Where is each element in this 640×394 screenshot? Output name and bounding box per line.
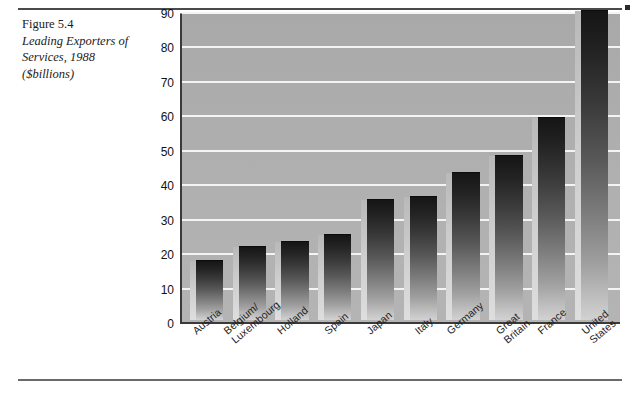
bar-italy[interactable]	[410, 196, 437, 320]
bar-slot	[316, 14, 359, 320]
y-axis-tick-0: 0	[148, 318, 174, 330]
bar-germany[interactable]	[452, 172, 479, 320]
bar-japan[interactable]	[367, 199, 394, 320]
y-axis: 9080706050403020100	[148, 14, 174, 324]
figure-title-line-1: Leading Exporters of	[22, 33, 157, 50]
y-axis-tick-50: 50	[148, 146, 174, 158]
bar-france[interactable]	[538, 117, 565, 320]
bar-slot	[402, 14, 445, 320]
y-axis-tick-10: 10	[148, 284, 174, 296]
bar-slot	[274, 14, 317, 320]
bar-great-britain[interactable]	[495, 155, 522, 320]
bar-slot	[530, 14, 573, 320]
bar-united-states[interactable]	[581, 10, 608, 320]
bar-spain[interactable]	[324, 234, 351, 320]
figure-title-line-2: Services, 1988	[22, 49, 157, 66]
page-bottom-rule	[18, 379, 622, 381]
bar-slot	[231, 14, 274, 320]
figure-caption: Figure 5.4 Leading Exporters of Services…	[22, 16, 157, 82]
y-axis-tick-30: 30	[148, 215, 174, 227]
y-axis-tick-40: 40	[148, 180, 174, 192]
y-axis-tick-80: 80	[148, 42, 174, 54]
bar-slot	[359, 14, 402, 320]
bar-slot	[188, 14, 231, 320]
page-top-rule	[18, 8, 622, 10]
bar-chart: 9080706050403020100 AustriaBelgium/ Luxe…	[148, 14, 626, 374]
bars	[184, 14, 620, 320]
figure-title-line-3: ($billions)	[22, 66, 157, 83]
bar-slot	[445, 14, 488, 320]
bar-slot	[573, 14, 616, 320]
y-axis-tick-20: 20	[148, 249, 174, 261]
y-axis-tick-90: 90	[148, 8, 174, 20]
y-axis-tick-70: 70	[148, 77, 174, 89]
corner-mark	[625, 5, 630, 10]
bar-slot	[488, 14, 531, 320]
plot-area	[180, 14, 620, 324]
figure-number: Figure 5.4	[22, 16, 157, 33]
y-axis-tick-60: 60	[148, 111, 174, 123]
